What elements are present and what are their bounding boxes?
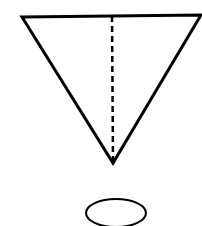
dashed-center-line	[112, 16, 113, 161]
background	[0, 0, 202, 226]
diagram-canvas	[0, 0, 202, 226]
